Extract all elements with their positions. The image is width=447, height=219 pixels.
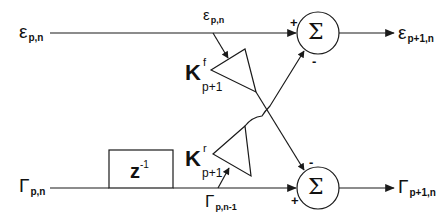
subscript: p,n: [211, 15, 225, 25]
delayed-tap-label: Γp,n-1: [205, 193, 237, 210]
kr-to-top-sum-wire: [245, 51, 304, 126]
sum-bottom-sigma: Σ: [308, 176, 324, 198]
forward-tap-wire: [213, 33, 228, 58]
sum-top-sigma: Σ: [308, 21, 324, 43]
symbol: ε: [203, 6, 210, 23]
symbol: Γ: [19, 175, 29, 196]
gain-forward-label: K f p+1: [185, 62, 225, 102]
subscript: p+1: [202, 167, 222, 179]
lattice-diagram: εp,n Γp,n εp,n Γp,n-1 K f p+1 K r p+1 z-…: [0, 0, 447, 219]
input-backward-label: Γp,n: [19, 176, 45, 195]
sum-top-plus: +: [290, 16, 298, 29]
symbol: K: [185, 60, 201, 85]
kf-to-bottom-sum-wire: [256, 92, 304, 170]
output-backward-label: Γp+1,n: [398, 177, 436, 196]
subscript: p+1: [202, 81, 222, 93]
superscript: -1: [140, 159, 149, 170]
sum-bottom-plus: +: [291, 194, 299, 207]
superscript: r: [203, 143, 207, 154]
subscript: p,n: [28, 32, 43, 43]
input-forward-label: εp,n: [19, 22, 43, 41]
symbol: Γ: [398, 176, 408, 197]
subscript: p+1,n: [409, 187, 435, 198]
superscript: f: [203, 57, 206, 68]
sum-bottom-minus: -: [309, 156, 313, 169]
symbol: Γ: [205, 192, 214, 211]
output-forward-label: εp+1,n: [398, 23, 434, 42]
forward-tap-label: εp,n: [203, 7, 224, 23]
symbol: ε: [398, 22, 406, 43]
subscript: p+1,n: [407, 33, 433, 44]
subscript: p,n: [30, 186, 45, 197]
sum-top-minus: -: [312, 55, 316, 68]
symbol: z: [130, 160, 140, 182]
gain-backward-label: K r p+1: [185, 148, 225, 188]
symbol: K: [185, 146, 201, 171]
delay-label: z-1: [130, 161, 149, 181]
subscript: p,n-1: [215, 202, 237, 212]
symbol: ε: [19, 21, 27, 42]
